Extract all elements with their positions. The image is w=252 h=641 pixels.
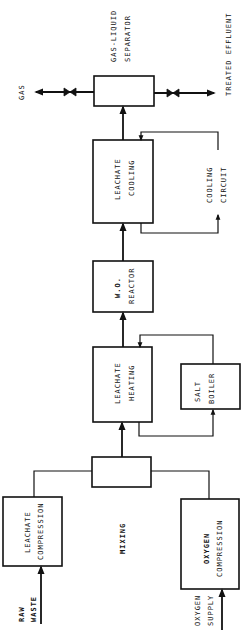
- leachate-compression-line2: COMPRESSION: [37, 503, 45, 560]
- separator-label-line1: GAS-LIQUID: [110, 10, 118, 62]
- oxygen-compression-line2: COMPRESSION: [216, 520, 224, 577]
- raw-waste-label: RAW WASTE: [18, 596, 38, 622]
- cooling-label-line1: LEACHATE: [114, 158, 122, 200]
- oxygen-compression-line1: OXYGEN: [203, 533, 211, 564]
- raw-waste-line1: RAW: [18, 606, 26, 622]
- cooling-circuit-line1: COOLING: [206, 166, 214, 203]
- heating-label-line1: LEACHATE: [114, 362, 122, 404]
- leachate-to-mixing-line: [34, 471, 92, 497]
- leachate-compression-unit: LEACHATE COMPRESSION: [3, 497, 62, 566]
- cooling-circuit-label: COOLING CIRCUIT: [206, 166, 228, 203]
- salt-boiler-unit: SALT BOILER: [181, 364, 240, 409]
- process-flow-diagram: GAS-LIQUID SEPARATOR GAS TREATED EFFLUEN…: [0, 0, 252, 641]
- leachate-compression-line1: LEACHATE: [24, 511, 32, 553]
- leachate-heating-unit: LEACHATE HEATING: [93, 347, 152, 422]
- boiler-label-line1: SALT: [194, 381, 202, 402]
- gas-outlet-line: [36, 88, 94, 96]
- separator-label: GAS-LIQUID SEPARATOR: [110, 10, 132, 62]
- reactor-label-line2: REACTOR: [128, 267, 136, 304]
- oxygen-supply-line2: SUPPLY: [207, 595, 215, 626]
- cooling-label-line2: COOLING: [128, 159, 136, 196]
- gas-label: GAS: [18, 84, 26, 100]
- oxygen-supply-label: OXYGEN SUPPLY: [194, 595, 215, 626]
- leachate-cooling-unit: LEACHATE COOLING: [93, 140, 153, 223]
- oxygen-to-mixing-line: [151, 471, 209, 499]
- wo-reactor-unit: W.O. REACTOR: [93, 261, 153, 312]
- mixing-label: MIXING: [119, 523, 127, 554]
- valve-icon: [64, 88, 76, 96]
- oxygen-supply-line1: OXYGEN: [194, 595, 202, 626]
- gas-liquid-separator: [94, 76, 154, 106]
- treated-effluent-label: TREATED EFFLUENT: [225, 13, 233, 96]
- mixing-unit: [92, 457, 151, 487]
- separator-label-line2: SEPARATOR: [124, 15, 132, 62]
- oxygen-compression-unit: OXYGEN COMPRESSION: [181, 499, 239, 589]
- valve-icon: [167, 89, 179, 97]
- heating-label-line2: HEATING: [128, 364, 136, 401]
- cooling-circuit-line2: CIRCUIT: [220, 166, 228, 203]
- boiler-label-line2: BOILER: [208, 373, 216, 404]
- raw-waste-line2: WASTE: [30, 596, 38, 622]
- reactor-label-line1: W.O.: [114, 277, 122, 298]
- effluent-outlet-line: [154, 89, 214, 97]
